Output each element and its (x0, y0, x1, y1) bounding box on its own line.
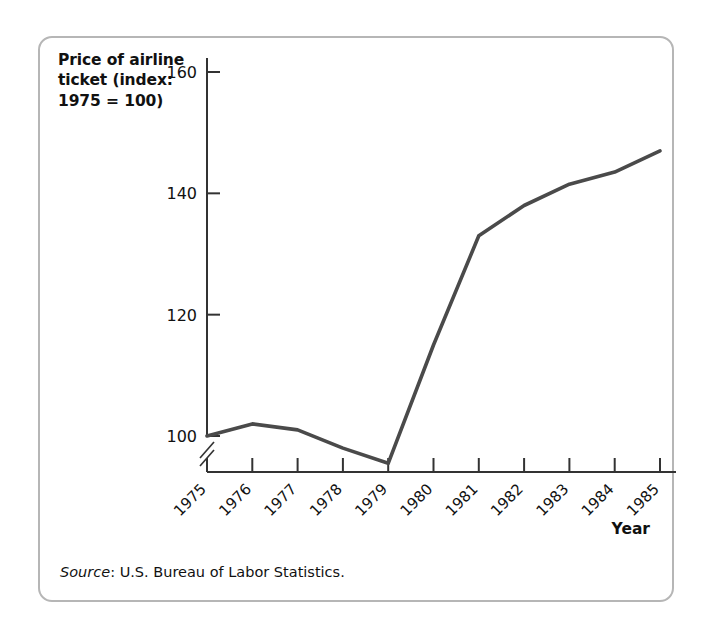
x-axis-title: Year (612, 520, 650, 538)
y-tick-label: 120 (166, 306, 197, 325)
source-separator: : (110, 564, 120, 580)
y-ticks-group: 100120140160 (166, 63, 220, 446)
axes-group (200, 58, 676, 472)
x-tick-label: 1982 (487, 480, 527, 520)
y-tick-label: 160 (166, 63, 197, 82)
y-tick-label: 100 (166, 427, 197, 446)
x-ticks-group: 1975197619771978197919801981198219831984… (170, 458, 663, 520)
x-tick-label: 1983 (532, 480, 572, 520)
data-series-line (207, 151, 660, 463)
x-tick-label: 1978 (306, 480, 346, 520)
plot-area: 100120140160 197519761977197819791980198… (40, 38, 676, 604)
x-tick-label: 1975 (170, 480, 210, 520)
source-label: Source (60, 564, 110, 580)
figure-card: Price of airline ticket (index: 1975 = 1… (38, 36, 674, 602)
x-tick-label: 1977 (261, 480, 301, 520)
line-chart-svg: 100120140160 197519761977197819791980198… (40, 38, 676, 604)
x-tick-label: 1976 (215, 480, 255, 520)
x-tick-label: 1979 (351, 480, 391, 520)
x-tick-label: 1980 (397, 480, 437, 520)
x-tick-label: 1984 (578, 480, 618, 520)
axis-break-slash-upper (200, 442, 214, 458)
x-tick-label: 1981 (442, 480, 482, 520)
y-tick-label: 140 (166, 184, 197, 203)
x-tick-label: 1985 (623, 480, 663, 520)
source-text: U.S. Bureau of Labor Statistics. (120, 564, 345, 580)
source-note: Source: U.S. Bureau of Labor Statistics. (60, 564, 345, 580)
